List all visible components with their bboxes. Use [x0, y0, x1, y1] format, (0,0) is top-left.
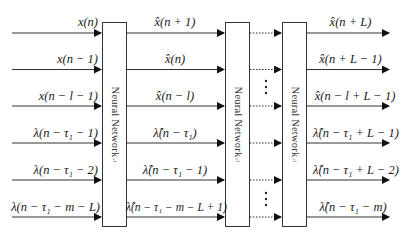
block-label: Neural Network↵ [109, 86, 120, 163]
stage1-output-label: x̂(n + 1) [126, 15, 224, 29]
final-output-label: x̂(n + L − 1) [308, 52, 393, 66]
input-label: λ(n − τ₁ − m − L) [0, 200, 100, 214]
input-label: x(n − l − 1) [10, 89, 98, 103]
neural-network-block-3: Neural Network↵ [282, 22, 307, 227]
neural-network-block-1: Neural Network↵ [102, 22, 127, 227]
input-label: λ(n − τ₁ − 2) [0, 163, 98, 177]
stage1-output-label: λ̂(n − τ₁) [126, 126, 224, 140]
input-label: x(n) [40, 15, 98, 29]
dotted-connections [250, 33, 281, 217]
stage1-output-label: λ̂(n − τ₁ − 1) [126, 163, 224, 177]
stage1-output-label: x̂(n − l) [126, 89, 224, 103]
final-output-label: λ̂(n − τ₁ − m) [308, 200, 398, 214]
recursive-neural-network-diagram: Neural Network↵ Neural Network↵ Neural N… [0, 0, 406, 241]
block-label: Neural Network↵ [289, 86, 300, 163]
input-label: λ(n − τ₁ − 1) [0, 126, 98, 140]
final-output-label: x̂(n − l + L − 1) [306, 89, 404, 103]
final-output-label: x̂(n + L) [308, 15, 393, 29]
final-output-label: λ̂(n − τ₁ + L − 1) [306, 126, 406, 140]
neural-network-block-2: Neural Network↵ [225, 22, 250, 227]
final-output-label: λ̂(n − τ₁ + L − 2) [306, 163, 406, 177]
stage1-output-label: λ̂(n − τ₁ − m − L + 1) [126, 200, 224, 214]
block-label: Neural Network↵ [232, 86, 243, 163]
input-label: x(n − 1) [28, 52, 98, 66]
stage1-output-label: x̂(n) [126, 52, 224, 66]
